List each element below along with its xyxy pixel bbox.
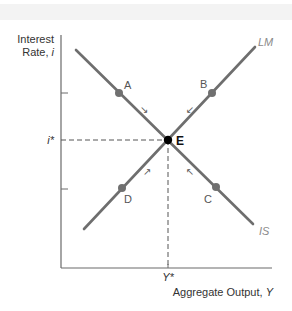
arrow-a-to-e-icon: ↘ — [140, 104, 148, 115]
arrow-d-to-e-icon: ↗ — [143, 166, 151, 177]
is-lm-diagram: A B C D E ↘ ↙ ↖ ↗ LM IS Interest Rate, i… — [0, 0, 292, 311]
y-axis-label-text: Rate, — [22, 46, 51, 58]
y-axis-label-line1: Interest — [17, 33, 54, 45]
x-axis-label: Aggregate Output, Y — [173, 286, 274, 298]
is-curve-label: IS — [259, 225, 270, 237]
i-star-label: i* — [47, 134, 54, 146]
y-star-label: Y* — [162, 271, 174, 283]
point-a-marker — [115, 89, 123, 97]
point-c-label: C — [204, 193, 212, 205]
arrow-c-to-e-icon: ↖ — [186, 166, 194, 177]
point-d-marker — [118, 184, 126, 192]
point-b-marker — [208, 89, 216, 97]
x-axis-label-var: Y — [266, 286, 274, 298]
y-axis-label-line2: Rate, i — [22, 46, 54, 58]
y-axis-label-var: i — [52, 46, 55, 58]
lm-curve-label: LM — [258, 36, 274, 48]
point-c-marker — [212, 183, 220, 191]
arrow-b-to-e-icon: ↙ — [186, 104, 194, 115]
point-b-label: B — [200, 78, 207, 90]
point-a-label: A — [124, 79, 132, 91]
point-d-label: D — [124, 193, 132, 205]
equilibrium-e-marker — [164, 136, 172, 144]
equilibrium-e-label: E — [176, 134, 184, 148]
x-axis-label-text: Aggregate Output, — [173, 286, 266, 298]
